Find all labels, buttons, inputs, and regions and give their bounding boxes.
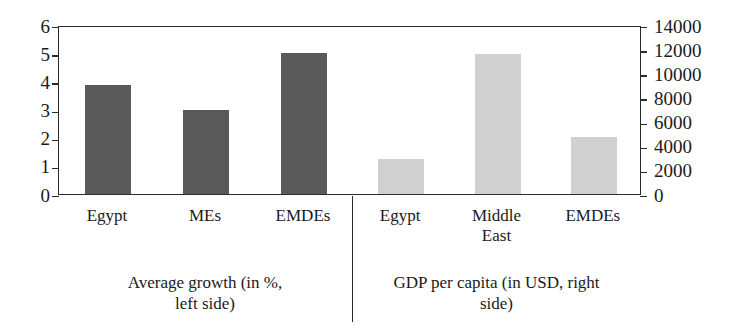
- chart-figure: 6543210 14000120001000080006000400020000…: [0, 0, 745, 332]
- category-label: Egypt: [58, 206, 156, 226]
- left-axis-tick-mark: [52, 168, 59, 169]
- category-label: EMDEs: [545, 206, 641, 226]
- left-axis-tick-label: 5: [41, 45, 51, 64]
- right-axis-tick-label: 12000: [654, 41, 702, 60]
- category-label: MEs: [156, 206, 254, 226]
- right-axis-tick-mark: [640, 99, 647, 100]
- left-axis-tick-mark: [52, 112, 59, 113]
- left-axis-tick-label: 4: [41, 73, 51, 92]
- right-axis-tick-mark: [640, 75, 647, 76]
- bar-gdp-per-capita-middle-east: [475, 54, 521, 194]
- right-axis-tick-mark: [640, 124, 647, 125]
- right-axis-tick-label: 2000: [654, 161, 692, 180]
- right-axis-tick-mark: [640, 51, 647, 52]
- right-axis-tick-mark: [640, 148, 647, 149]
- bar-average-growth-mes: [183, 110, 229, 195]
- group-caption-average-growth: Average growth (in %,left side): [58, 272, 352, 315]
- left-axis-tick-label: 1: [41, 157, 51, 176]
- right-axis-tick-label: 4000: [654, 137, 692, 156]
- left-axis-tick-mark: [52, 140, 59, 141]
- category-label: Egypt: [352, 206, 448, 226]
- right-axis-tick-mark: [640, 172, 647, 173]
- right-axis-tick-label: 8000: [654, 89, 692, 108]
- bar-average-growth-egypt: [85, 85, 131, 194]
- category-label: Middle East: [448, 206, 544, 246]
- left-axis-tick-mark: [52, 196, 59, 197]
- right-axis-tick-mark: [640, 27, 647, 28]
- left-axis-tick-mark: [52, 83, 59, 84]
- left-axis-tick-label: 6: [41, 17, 51, 36]
- left-axis-tick-label: 0: [41, 186, 51, 205]
- left-axis-tick-label: 3: [41, 101, 51, 120]
- bar-gdp-per-capita-emdes: [571, 137, 617, 194]
- plot-area: [58, 26, 641, 195]
- left-axis-tick-mark: [52, 55, 59, 56]
- left-axis-tick-label: 2: [41, 129, 51, 148]
- group-caption-gdp-per-capita: GDP per capita (in USD, rightside): [352, 272, 641, 315]
- category-label: EMDEs: [254, 206, 352, 226]
- right-axis-tick-mark: [640, 196, 647, 197]
- right-axis-tick-label: 10000: [654, 65, 702, 84]
- left-axis-tick-mark: [52, 27, 59, 28]
- bar-gdp-per-capita-egypt: [378, 159, 424, 194]
- right-axis-tick-label: 0: [654, 186, 664, 205]
- right-axis-tick-label: 14000: [654, 17, 702, 36]
- bar-average-growth-emdes: [281, 53, 327, 194]
- right-axis-tick-label: 6000: [654, 113, 692, 132]
